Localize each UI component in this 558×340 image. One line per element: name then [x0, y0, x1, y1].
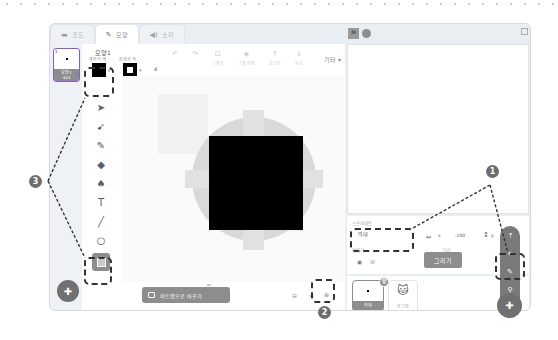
cat-icon: 🐱 [397, 284, 408, 297]
paint-tooltip: 그리기 [424, 252, 462, 268]
tab-costumes[interactable]: ✎ 모양 [95, 24, 139, 44]
arrow-down-icon: ↓ [296, 50, 302, 58]
y-arrows-icon: ↕ [483, 231, 489, 239]
choose-sprite-button[interactable]: ✚ [497, 293, 522, 318]
outline-width-input[interactable]: 4 [154, 66, 157, 72]
eraser-icon: ◆ [97, 159, 105, 170]
fill-tool[interactable]: ♠ [94, 177, 108, 189]
cursor-arrow-icon: ➤ [97, 102, 105, 113]
paint-editor: 모양1 채우기 색 윤곽선 색 ▾ ▾ 4 ↶ ↷ ⊡그룹화 ◈그룹 해제 ↑앞… [82, 44, 345, 311]
zoom-out-button[interactable]: ⊖ [292, 292, 297, 299]
stop-icon[interactable] [362, 29, 371, 38]
group-button[interactable]: ⊡그룹화 [212, 50, 224, 66]
backward-label: 뒤로 [295, 60, 303, 66]
outline-color-swatch[interactable] [123, 63, 137, 77]
drawn-rectangle[interactable] [209, 136, 303, 230]
outline-label: 윤곽선 색 [119, 56, 136, 62]
ungroup-label: 그룹 해제 [238, 60, 255, 66]
select-tool[interactable]: ➤ [94, 101, 108, 113]
canvas-bg [158, 94, 208, 154]
green-flag-icon[interactable]: ⚑ [348, 28, 359, 39]
tab-sounds[interactable]: ◀) 소리 [139, 24, 185, 44]
upload-icon[interactable]: ⤒ [509, 230, 512, 242]
image-icon [148, 292, 155, 298]
sprite-item[interactable]: 🐱 공그림 [388, 280, 418, 311]
paint-bucket-icon: ♠ [97, 178, 106, 189]
x-label: x [438, 233, 441, 238]
convert-to-bitmap-button[interactable]: 비트맵으로 바꾸기 [142, 287, 230, 303]
costume-number: 1 [55, 49, 58, 54]
forward-label: 앞으로 [269, 60, 281, 66]
undo-icon: ↶ [172, 50, 178, 58]
stage-header: ⚑ [345, 24, 531, 44]
text-tool[interactable]: T [94, 196, 108, 208]
stage[interactable] [347, 44, 529, 214]
circle-tool[interactable]: ○ [94, 234, 108, 246]
reshape-icon: ➹ [97, 121, 105, 132]
brush-tool[interactable]: ✎ [94, 139, 108, 151]
y-label: y [491, 233, 494, 238]
highlight-fill-color [84, 67, 114, 97]
sprite-label: 공그림 [389, 303, 417, 309]
tab-label: 모양 [116, 30, 128, 39]
canvas-scrollbar[interactable] [207, 284, 211, 286]
eraser-tool[interactable]: ◆ [94, 158, 108, 170]
paint-toolbar: ↶ ↷ ⊡그룹화 ◈그룹 해제 ↑앞으로 ↓뒤로 [172, 50, 303, 74]
brush-icon: ✎ [106, 31, 112, 39]
redo-icon: ↷ [192, 50, 198, 58]
sprite-preview [367, 290, 369, 292]
callout-1: 1 [486, 165, 499, 178]
reshape-tool[interactable]: ➹ [94, 120, 108, 132]
ungroup-icon: ◈ [244, 50, 249, 58]
arrow-up-icon: ↑ [272, 50, 278, 58]
show-eye-icon[interactable]: ◉ [357, 258, 362, 265]
line-tool[interactable]: ╱ [94, 215, 108, 227]
add-costume-button[interactable]: ✚ [57, 280, 79, 302]
redo-button[interactable]: ↷ [192, 50, 198, 58]
drawing-canvas[interactable] [122, 76, 344, 282]
costume-label: 모양1 4x4 [54, 69, 79, 81]
group-label: 그룹화 [212, 60, 224, 66]
circle-icon: ○ [97, 235, 106, 246]
text-icon: T [98, 197, 104, 208]
forward-button[interactable]: ↑앞으로 [269, 50, 281, 66]
top-dotted-border [0, 2, 558, 6]
convert-label: 비트맵으로 바꾸기 [160, 292, 202, 299]
cat-plus-icon: ✚ [505, 300, 513, 311]
costume-item[interactable]: 1 모양1 4x4 [53, 48, 80, 82]
more-menu-button[interactable]: 기타 ▾ [324, 55, 341, 64]
fullscreen-icon[interactable] [521, 28, 528, 35]
sprite-label: 막대 [353, 301, 383, 311]
fill-label: 채우기 색 [89, 56, 106, 62]
group-icon: ⊡ [215, 50, 221, 58]
costume-preview [66, 58, 68, 60]
costume-list: 1 모양1 4x4 ✚ [50, 44, 82, 311]
callout-3: 3 [29, 175, 42, 188]
tool-palette: ➤ ➹ ✎ ◆ ♠ T ╱ ○ [92, 101, 110, 271]
sprite-label: 스프라이트 [352, 220, 372, 226]
x-input[interactable]: -200 [455, 233, 465, 238]
x-arrows-icon: ↔ [426, 233, 431, 240]
ungroup-button[interactable]: ◈그룹 해제 [238, 50, 255, 66]
highlight-sprite-name [350, 228, 414, 252]
callout-2: 2 [318, 306, 331, 319]
speaker-icon: ◀) [150, 31, 158, 39]
costume-size: 4x4 [54, 75, 79, 80]
tab-bar: ▬ 코드 ✎ 모양 ◀) 소리 [50, 24, 185, 44]
cat-plus-icon: ✚ [64, 286, 72, 297]
tab-label: 소리 [162, 30, 174, 39]
undo-button[interactable]: ↶ [172, 50, 178, 58]
hide-eye-icon[interactable]: ⊘ [370, 258, 375, 265]
outline-dropdown-icon[interactable]: ▾ [139, 67, 142, 73]
code-icon: ▬ [61, 31, 68, 39]
tab-code[interactable]: ▬ 코드 [50, 24, 95, 44]
highlight-zoom-in [311, 279, 335, 303]
highlight-rectangle-tool [84, 257, 112, 285]
highlight-paint-button [495, 253, 525, 280]
backward-button[interactable]: ↓뒤로 [295, 50, 303, 66]
tab-label: 코드 [72, 30, 84, 39]
line-icon: ╱ [98, 216, 104, 227]
brush-icon: ✎ [97, 140, 105, 151]
